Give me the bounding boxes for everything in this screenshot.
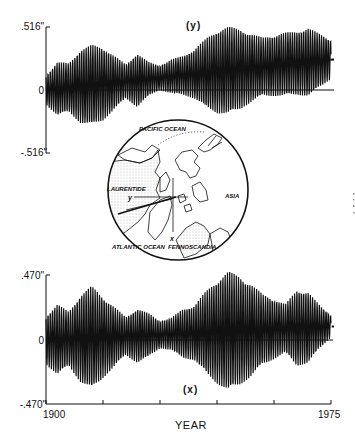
polar-motion-figure: .516" 0 -.516" (y) <box>0 0 355 441</box>
top-ymax-label: .516" <box>21 21 44 32</box>
year-end-label: 1975 <box>318 409 341 420</box>
bottom-panel-label: (x) <box>183 384 198 395</box>
oscillation-path <box>46 272 331 388</box>
map-label-fennoscandia: FENNOSCANDIA <box>168 244 216 250</box>
edge-marks <box>353 193 355 214</box>
x-axis-title: YEAR <box>175 419 207 431</box>
map-label-pacific: PACIFIC OCEAN <box>139 126 187 132</box>
bottom-zero-label: 0 <box>38 335 44 346</box>
top-panel-label: (y) <box>186 20 201 31</box>
x-oscillation-series <box>46 272 331 388</box>
top-ymin-label: -.516" <box>21 147 48 158</box>
top-zero-label: 0 <box>38 85 44 96</box>
polar-map: PACIFIC OCEAN ASIA LAURENTIDE ATLANTIC O… <box>104 120 248 260</box>
year-start-label: 1900 <box>43 409 66 420</box>
map-label-asia: ASIA <box>224 193 239 199</box>
map-label-atlantic: ATLANTIC OCEAN <box>111 244 166 250</box>
bottom-ymax-label: .470" <box>21 270 44 281</box>
bottom-panel: .470" 0 -.470" (x) 1900 1975 YEAR <box>20 270 341 431</box>
x-axis-ticks <box>46 400 331 404</box>
map-label-laurentide: LAURENTIDE <box>107 186 147 192</box>
